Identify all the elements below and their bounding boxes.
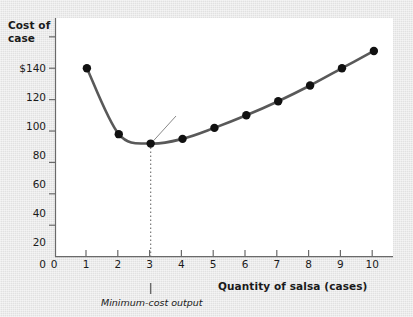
plot-area-background (55, 18, 393, 257)
data-point-6 (242, 111, 250, 119)
data-point-5 (210, 124, 218, 132)
plot-svg (0, 0, 413, 317)
figure-container: Cost of case Quantity of salsa (cases) $… (0, 0, 413, 317)
data-point-3 (146, 139, 154, 147)
data-point-7 (274, 97, 282, 105)
data-point-8 (306, 81, 314, 89)
data-point-9 (338, 64, 346, 72)
data-point-10 (370, 47, 378, 55)
data-point-2 (115, 130, 123, 138)
data-point-1 (83, 64, 91, 72)
data-point-4 (178, 135, 186, 143)
